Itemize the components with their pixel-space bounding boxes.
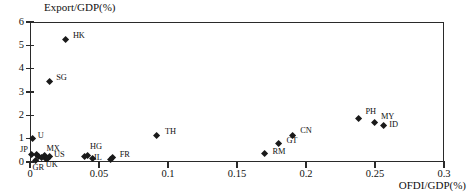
data-point-label: US (54, 151, 65, 159)
x-tick-mark (374, 161, 375, 168)
x-tick-label: 0.2 (299, 169, 312, 180)
y-tick-label: 2 (6, 110, 24, 121)
x-tick-label: 0.25 (366, 169, 384, 180)
data-point-label: SG (56, 74, 67, 82)
x-tick-mark (443, 161, 444, 168)
y-tick-label: 6 (6, 17, 24, 28)
y-tick-mark (26, 68, 34, 69)
y-tick-mark (26, 21, 34, 22)
data-point-label: FR (120, 151, 130, 159)
x-tick-mark (305, 161, 306, 168)
data-point-label: TH (165, 128, 176, 136)
data-point-label: U (38, 132, 44, 140)
data-point-label: GT (286, 137, 297, 145)
data-point-label: ID (389, 121, 398, 129)
y-axis-title: Export/GDP(%) (44, 2, 116, 13)
x-tick-label: 0.15 (228, 169, 246, 180)
x-tick-mark (236, 161, 237, 168)
data-point-label: HG (90, 143, 102, 151)
y-tick-mark (26, 115, 34, 116)
y-tick-label: 4 (6, 63, 24, 74)
x-tick-label: 0.05 (90, 169, 108, 180)
data-point-label: IL (94, 154, 102, 162)
data-point-label: CN (300, 127, 311, 135)
y-tick-label: 5 (6, 40, 24, 51)
y-tick-mark (26, 91, 34, 92)
scatter-chart: Export/GDP(%) 0123456 00.050.10.150.20.2… (0, 0, 472, 194)
data-point-label: PH (365, 108, 376, 116)
x-axis-title: OFDI/GDP(%) (399, 180, 466, 191)
plot-frame (30, 22, 444, 162)
y-tick-mark (26, 45, 34, 46)
x-tick-mark (167, 161, 168, 168)
data-point-label: JP (20, 146, 28, 154)
data-point-label: GR (33, 164, 44, 172)
y-tick-label: 1 (6, 133, 24, 144)
x-tick-label: 0.3 (437, 169, 450, 180)
x-tick-mark (29, 161, 30, 168)
data-point-label: HK (73, 32, 85, 40)
y-tick-label: 0 (6, 157, 24, 168)
y-tick-label: 3 (6, 87, 24, 98)
x-tick-label: 0.1 (161, 169, 174, 180)
data-point-label: RM (273, 148, 286, 156)
